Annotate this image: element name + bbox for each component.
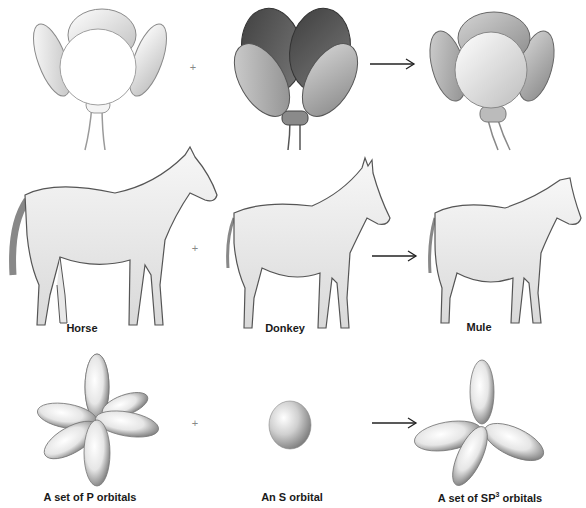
- p-orbitals-label: A set of P orbitals: [44, 491, 137, 503]
- donkey-illustration: [222, 158, 392, 333]
- hybrid-flower-illustration: [428, 8, 553, 150]
- p-orbitals-illustration: [35, 355, 160, 485]
- white-flower-illustration: [30, 5, 170, 150]
- sp3-label-prefix: A set of SP: [438, 492, 496, 504]
- sp3-orbitals-label: A set of SP3 orbitals: [438, 491, 542, 504]
- plus-sign-equines: +: [192, 242, 198, 254]
- arrow-orbitals: [372, 417, 418, 429]
- mule-label: Mule: [466, 321, 491, 333]
- plus-sign-orbitals: +: [192, 417, 198, 429]
- horse-label: Horse: [66, 322, 97, 334]
- sp3-orbitals-illustration: [420, 362, 545, 487]
- sp3-label-suffix: orbitals: [499, 492, 542, 504]
- donkey-label: Donkey: [265, 322, 305, 334]
- s-orbital-illustration: [265, 398, 315, 453]
- dark-flower-illustration: [232, 5, 362, 150]
- mule-illustration: [425, 178, 583, 328]
- arrow-equines: [372, 250, 418, 262]
- horse-illustration: [5, 145, 220, 330]
- arrow-flowers: [370, 58, 416, 70]
- s-orbital-label: An S orbital: [261, 491, 323, 503]
- plus-sign-flowers: +: [190, 61, 196, 73]
